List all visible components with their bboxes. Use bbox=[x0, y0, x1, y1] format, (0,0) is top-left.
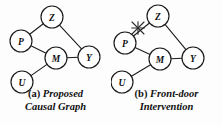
node-label-p: P bbox=[18, 37, 24, 47]
edge-cut-mark-icon bbox=[132, 22, 145, 35]
panel-b-caption-line-2: Intervention bbox=[111, 101, 222, 114]
panel-b-caption: (b) Front-door Intervention bbox=[111, 88, 222, 113]
panel-a-caption: (a) Proposed Causal Graph bbox=[0, 88, 111, 113]
node-label-p: P bbox=[122, 39, 128, 49]
node-p: P bbox=[10, 30, 32, 52]
panel-proposed-causal-graph: ZPMYU (a) Proposed Causal Graph bbox=[0, 0, 111, 125]
panel-a-caption-tag: (a) bbox=[28, 88, 40, 99]
node-y: Y bbox=[182, 47, 204, 69]
node-p: P bbox=[114, 32, 136, 54]
edge-p-z bbox=[30, 24, 44, 35]
edge-z-y bbox=[165, 24, 186, 49]
edge-p-m bbox=[135, 48, 150, 55]
edge-u-m bbox=[31, 64, 47, 75]
causal-graph-figure: ZPMYU (a) Proposed Causal Graph ZPMYU (b… bbox=[0, 0, 222, 125]
panel-b-caption-line-1: Front-door bbox=[150, 88, 198, 99]
panel-a-caption-line-2: Causal Graph bbox=[0, 101, 111, 114]
node-label-m: M bbox=[51, 54, 61, 64]
panel-a-caption-line-1: Proposed bbox=[43, 88, 83, 99]
node-label-m: M bbox=[155, 55, 165, 65]
graph-canvas-b: ZPMYU bbox=[111, 0, 222, 96]
edge-z-y bbox=[59, 25, 81, 49]
node-label-z: Z bbox=[48, 13, 55, 23]
node-z: Z bbox=[147, 5, 169, 27]
node-y: Y bbox=[78, 46, 100, 68]
node-z: Z bbox=[41, 6, 63, 28]
node-m: M bbox=[45, 47, 67, 69]
node-label-u: U bbox=[119, 78, 127, 88]
panel-b-caption-tag: (b) bbox=[135, 88, 148, 99]
edge-u-m bbox=[131, 65, 150, 77]
node-label-u: U bbox=[19, 78, 27, 88]
panel-front-door-intervention: ZPMYU (b) Front-door Intervention bbox=[111, 0, 222, 125]
graph-canvas-a: ZPMYU bbox=[0, 0, 111, 96]
node-label-z: Z bbox=[154, 12, 161, 22]
edge-p-m bbox=[31, 46, 46, 53]
node-m: M bbox=[149, 48, 171, 70]
